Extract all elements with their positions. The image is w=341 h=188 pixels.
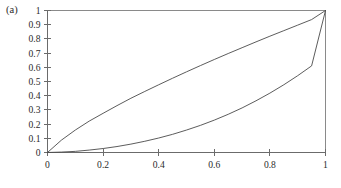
data-curves bbox=[48, 11, 326, 153]
y-tick-label: 0.3 bbox=[29, 104, 41, 115]
y-tick-label: 0.5 bbox=[29, 76, 41, 87]
y-tick-label: 1 bbox=[36, 5, 41, 16]
x-axis-tick-labels: 00.20.40.60.81 bbox=[45, 159, 328, 170]
y-tick-label: 0.9 bbox=[29, 19, 41, 30]
curve-upper-curve bbox=[48, 11, 326, 153]
x-tick-label: 0.6 bbox=[208, 159, 220, 170]
x-tick-label: 0.4 bbox=[153, 159, 165, 170]
tick-marks bbox=[44, 11, 325, 156]
y-tick-label: 0.1 bbox=[29, 133, 41, 144]
x-tick-label: 0 bbox=[45, 159, 50, 170]
x-tick-label: 0.2 bbox=[97, 159, 109, 170]
x-tick-label: 1 bbox=[323, 159, 328, 170]
y-tick-label: 0.2 bbox=[29, 119, 41, 130]
y-tick-label: 0.4 bbox=[29, 90, 41, 101]
plot-frame bbox=[48, 11, 326, 153]
y-tick-label: 0.6 bbox=[29, 62, 41, 73]
y-tick-label: 0.8 bbox=[29, 33, 41, 44]
y-tick-label: 0.7 bbox=[29, 48, 41, 59]
curve-lower-curve bbox=[48, 11, 326, 153]
figure-panel: (a) 00.10.20.30.40.50.60.70.80.91 00.20.… bbox=[0, 0, 341, 188]
y-axis-tick-labels: 00.10.20.30.40.50.60.70.80.91 bbox=[29, 5, 41, 158]
y-tick-label: 0 bbox=[36, 147, 41, 158]
x-tick-label: 0.8 bbox=[264, 159, 276, 170]
line-chart: 00.10.20.30.40.50.60.70.80.91 00.20.40.6… bbox=[0, 0, 341, 188]
